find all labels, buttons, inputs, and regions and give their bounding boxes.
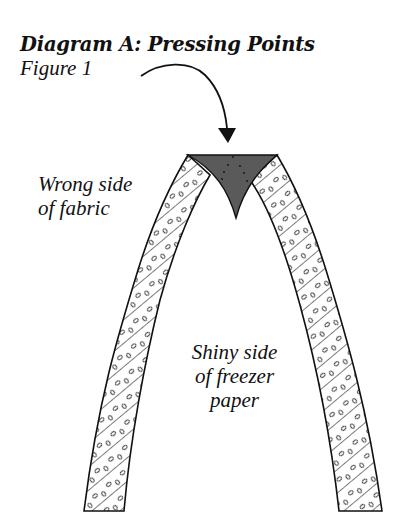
label-line: of freezer: [172, 364, 297, 388]
right-fabric-band: [250, 155, 382, 511]
label-shiny-side-of-freezer-paper: Shiny side of freezer paper: [172, 340, 297, 412]
label-wrong-side-of-fabric: Wrong side of fabric: [38, 172, 132, 220]
diagram-title: Diagram A: Pressing Points: [20, 33, 315, 56]
curved-arrow-icon: [141, 65, 236, 143]
label-line: of fabric: [38, 196, 132, 220]
label-line: Shiny side: [172, 340, 297, 364]
label-line: paper: [172, 388, 297, 412]
label-line: Wrong side: [38, 172, 132, 196]
figure-label: Figure 1: [20, 56, 92, 81]
